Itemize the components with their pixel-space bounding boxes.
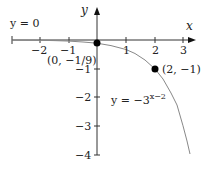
y-tick-label-m1: −1 xyxy=(75,63,91,76)
equation-main: y = −3 xyxy=(110,94,150,107)
x-tick-label-3: 3 xyxy=(180,44,187,57)
chart: x y y = 0 −2 −1 1 2 3 (0, −1/9) (2, −1) … xyxy=(0,0,203,169)
equation-label: y = −3x−2 xyxy=(110,92,166,107)
x-tick-label-1: 1 xyxy=(123,44,130,57)
y-axis-label: y xyxy=(80,3,88,17)
y-tick-label-m2: −2 xyxy=(75,91,91,104)
equation-exponent: x−2 xyxy=(150,92,166,101)
point-0-neg1-9 xyxy=(94,40,101,47)
y-tick-label-m4: −4 xyxy=(75,149,91,162)
point-2-neg1 xyxy=(152,66,159,73)
point-b-label: (2, −1) xyxy=(162,63,201,76)
y-axis-arrow-icon xyxy=(94,7,100,15)
x-axis-arrow-icon xyxy=(188,37,196,43)
x-tick-label-2: 2 xyxy=(152,44,159,57)
x-tick-label-m2: −2 xyxy=(31,44,47,57)
x-axis-label: x xyxy=(186,19,193,33)
asymptote-label: y = 0 xyxy=(9,17,39,30)
y-tick-label-m3: −3 xyxy=(75,120,91,133)
